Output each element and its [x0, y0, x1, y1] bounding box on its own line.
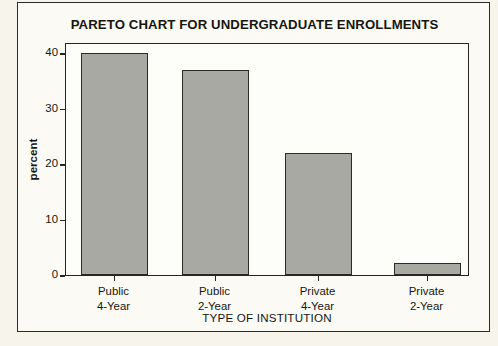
x-tick-mark	[318, 276, 319, 281]
plot-area	[65, 43, 469, 276]
x-tick-label-line1: Private	[300, 285, 335, 297]
x-tick-label-1: Public4-Year	[64, 284, 164, 313]
bar-2	[182, 70, 249, 275]
y-tick-label: 20	[45, 157, 58, 169]
bars-container	[66, 44, 468, 275]
bar-1	[81, 53, 148, 275]
x-tick-label-line1: Private	[409, 285, 444, 297]
y-tick-label: 0	[52, 268, 58, 280]
x-tick-label-2: Public2-Year	[165, 284, 265, 313]
x-tick-label-line1: Public	[199, 285, 230, 297]
chart-page-panel: PARETO CHART FOR UNDERGRADUATE ENROLLMEN…	[17, 2, 490, 332]
x-tick-label-line1: Public	[98, 285, 129, 297]
y-axis: 010203040	[18, 43, 65, 276]
x-axis-title: TYPE OF INSTITUTION	[65, 311, 469, 324]
x-tick-mark	[114, 276, 115, 281]
bar-3	[285, 153, 352, 275]
bar-4	[394, 263, 461, 275]
x-tick-label-4: Private2-Year	[377, 284, 477, 313]
x-tick-mark	[215, 276, 216, 281]
x-tick-label-3: Private4-Year	[268, 284, 368, 313]
y-tick-label: 30	[45, 102, 58, 114]
y-tick-label: 10	[45, 213, 58, 225]
x-tick-mark	[427, 276, 428, 281]
chart-title: PARETO CHART FOR UNDERGRADUATE ENROLLMEN…	[18, 17, 491, 32]
y-tick-label: 40	[45, 46, 58, 58]
